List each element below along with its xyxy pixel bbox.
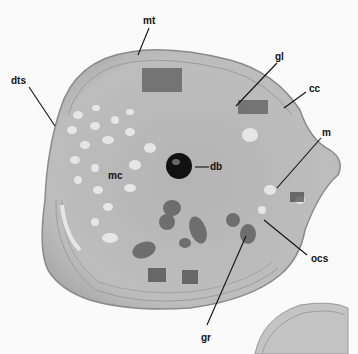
label-gl: gl bbox=[275, 52, 284, 62]
label-cc: cc bbox=[309, 84, 320, 94]
micrograph-figure: mt gl cc dts m mc db ocs gr bbox=[0, 0, 358, 354]
label-mt: mt bbox=[143, 16, 155, 26]
label-dts: dts bbox=[11, 76, 26, 86]
label-m: m bbox=[322, 128, 331, 138]
label-gr: gr bbox=[201, 333, 211, 343]
label-ocs: ocs bbox=[311, 254, 328, 264]
label-db: db bbox=[210, 162, 222, 172]
micrograph-image bbox=[0, 0, 358, 354]
label-mc: mc bbox=[108, 171, 122, 181]
